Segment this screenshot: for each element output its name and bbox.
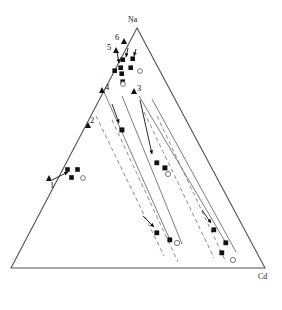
dashed-trend-lines <box>96 112 226 262</box>
series-label-1: 1 <box>50 180 54 190</box>
series-label-6: 6 <box>115 32 119 42</box>
series-label-3: 3 <box>137 83 141 93</box>
vertex-label-na: Na <box>128 15 137 24</box>
series-label-4: 4 <box>105 82 109 92</box>
ternary-diagram-figure: Na Cd 1 2 3 4 5 6 <box>0 0 282 310</box>
series-label-2: 2 <box>90 115 94 125</box>
diagram-canvas <box>0 0 282 310</box>
ternary-triangle-outline <box>11 28 265 268</box>
vertex-label-cd: Cd <box>258 272 267 281</box>
trajectory-arrows <box>52 48 211 227</box>
series-label-5: 5 <box>107 42 111 52</box>
